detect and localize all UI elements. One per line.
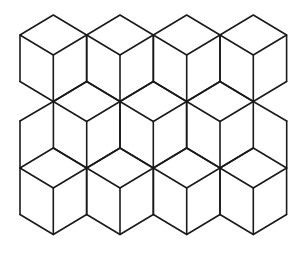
cube-top-face xyxy=(220,148,287,188)
cube-top-face xyxy=(220,15,287,55)
cube-top-face xyxy=(20,148,87,188)
cube-row-3-3 xyxy=(153,148,220,235)
right-upper-join xyxy=(253,102,286,122)
cube-top-face xyxy=(153,15,220,55)
cube-row-1-3 xyxy=(153,15,220,102)
cube-top-face xyxy=(20,15,87,55)
cube-top-face xyxy=(53,82,120,122)
cube-row-2-3 xyxy=(187,82,254,169)
cube-top-face xyxy=(120,82,187,122)
left-upper-join xyxy=(20,102,53,122)
tumbling-blocks-figure xyxy=(0,0,297,253)
cube-row-2-2 xyxy=(120,82,187,169)
cube-row-2-1 xyxy=(53,82,120,169)
cube-grid xyxy=(20,15,287,235)
cube-row-3-1 xyxy=(20,148,87,235)
cube-row-1-1 xyxy=(20,15,87,102)
cube-row-1-2 xyxy=(87,15,154,102)
cube-top-face xyxy=(87,148,154,188)
cube-row-3-4 xyxy=(220,148,287,235)
cube-top-face xyxy=(87,15,154,55)
cube-top-face xyxy=(153,148,220,188)
cube-top-face xyxy=(187,82,254,122)
cube-row-1-4 xyxy=(220,15,287,102)
cube-row-3-2 xyxy=(87,148,154,235)
